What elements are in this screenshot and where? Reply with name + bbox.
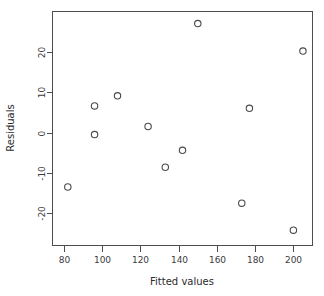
y-axis-ticks <box>47 53 53 214</box>
x-tick-label: 180 <box>247 255 264 265</box>
data-point <box>300 48 306 54</box>
y-axis-title: Residuals <box>5 104 16 151</box>
y-tick-label: -20 <box>37 206 47 221</box>
data-point <box>246 105 252 111</box>
y-tick-label: 0 <box>37 130 47 136</box>
y-tick-label: 10 <box>37 87 47 99</box>
data-point <box>290 227 296 233</box>
y-axis-tick-labels: 20100-10-20 <box>37 47 47 221</box>
y-tick-label: 20 <box>37 47 47 59</box>
x-tick-label: 80 <box>59 255 71 265</box>
data-point <box>179 147 185 153</box>
data-point <box>91 131 97 137</box>
y-tick-label: -10 <box>37 166 47 181</box>
x-axis-tick-labels: 80100120140160180200 <box>59 255 303 265</box>
x-tick-label: 160 <box>209 255 226 265</box>
data-point <box>114 93 120 99</box>
residual-plot: 80100120140160180200 20100-10-20 Fitted … <box>0 0 324 296</box>
x-axis-ticks <box>65 246 294 252</box>
plot-frame <box>53 12 313 246</box>
plot-canvas: 80100120140160180200 20100-10-20 Fitted … <box>0 0 324 296</box>
x-axis-title: Fitted values <box>150 276 214 287</box>
x-tick-label: 200 <box>285 255 302 265</box>
data-point <box>195 20 201 26</box>
x-tick-label: 120 <box>132 255 149 265</box>
x-tick-label: 100 <box>94 255 111 265</box>
scatter-points <box>65 20 307 233</box>
data-point <box>239 200 245 206</box>
data-point <box>91 103 97 109</box>
data-point <box>145 123 151 129</box>
data-point <box>65 184 71 190</box>
data-point <box>162 164 168 170</box>
x-tick-label: 140 <box>171 255 188 265</box>
